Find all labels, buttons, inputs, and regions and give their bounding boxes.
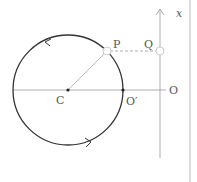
point-p-marker	[103, 47, 111, 55]
o-prime-point	[121, 88, 124, 91]
point-q-marker	[156, 47, 164, 55]
label-c: C	[56, 94, 64, 107]
label-p: P	[113, 38, 121, 51]
center-point	[66, 88, 69, 91]
label-q: Q	[144, 38, 153, 51]
radius-line	[68, 51, 107, 90]
label-o: O	[169, 84, 178, 97]
label-o-prime: O′	[126, 95, 138, 108]
diagram-canvas: C P Q O′ O x	[0, 0, 197, 182]
label-x-axis: x	[176, 7, 183, 20]
